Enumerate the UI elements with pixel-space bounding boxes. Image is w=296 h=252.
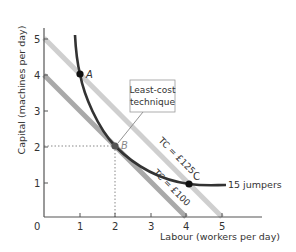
- point-b: [111, 142, 118, 149]
- annotation-text-line2: technique: [130, 97, 175, 107]
- isocost-line-125: [44, 38, 222, 217]
- isoquant-label: 15 jumpers: [228, 179, 282, 190]
- y-tick-5: 5: [34, 34, 40, 45]
- chart: 0 1 2 3 4 5 1 2 3 4 5 Labour (workers pe…: [0, 0, 296, 252]
- y-tick-2: 2: [34, 142, 40, 153]
- y-tick-4: 4: [34, 70, 40, 81]
- x-tick-3: 3: [148, 221, 154, 232]
- point-c-label: C: [193, 171, 200, 182]
- annotation-text-line1: Least-cost: [129, 85, 176, 95]
- x-axis-label: Labour (workers per day): [160, 231, 280, 242]
- x-tick-2: 2: [112, 221, 118, 232]
- y-tick-1: 1: [34, 178, 40, 189]
- origin-label: 0: [34, 221, 40, 232]
- point-a: [76, 70, 83, 77]
- x-tick-1: 1: [77, 221, 83, 232]
- point-a-label: A: [85, 69, 93, 80]
- point-c: [185, 180, 192, 187]
- y-tick-3: 3: [34, 106, 40, 117]
- point-b-label: B: [121, 140, 128, 151]
- y-axis-label: Capital (machines per day): [16, 26, 27, 155]
